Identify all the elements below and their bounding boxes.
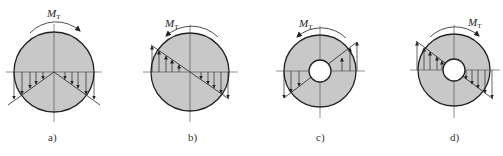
- moment-label: MT: [467, 16, 482, 30]
- panel-caption: d): [450, 131, 460, 144]
- panel-caption: b): [188, 131, 198, 144]
- panel-b: MT b): [143, 17, 238, 144]
- panel-caption: a): [48, 131, 57, 144]
- hollow-cross-section-inner: [443, 59, 465, 81]
- moment-arrow: [30, 22, 80, 33]
- moment-label: MT: [164, 17, 179, 31]
- panel-c: MT c): [276, 17, 365, 144]
- moment-label: MT: [46, 7, 61, 21]
- hollow-cross-section-inner: [309, 60, 331, 82]
- panel-caption: c): [316, 131, 325, 144]
- moment-label: MT: [298, 17, 313, 31]
- panel-a: MT a): [6, 7, 102, 144]
- torsion-stress-figure: MT a) MT b): [0, 0, 503, 156]
- panel-d: MT d): [410, 16, 500, 144]
